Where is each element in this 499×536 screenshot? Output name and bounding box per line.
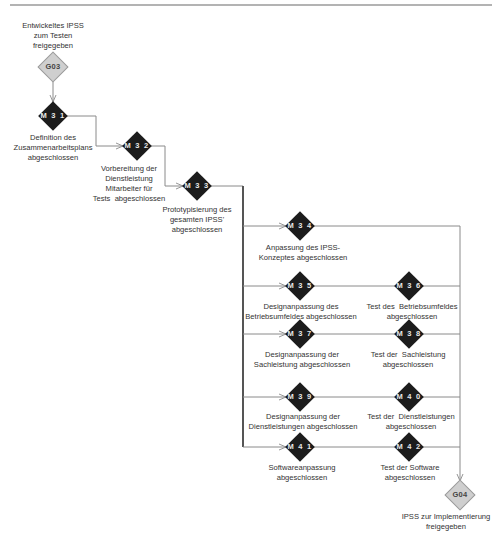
milestone-m35[interactable]: M 3 5 [285,271,315,301]
gate-g04-label: IPSS zur Implementierung freigegeben [402,512,491,532]
milestone-m36[interactable]: M 3 6 [394,271,424,301]
milestone-m37[interactable]: M 3 7 [285,319,315,349]
connector-lines [0,0,499,536]
milestone-m40-label: Test der Dienstleistungen abgeschlossen [367,412,454,432]
milestone-m33[interactable]: M 3 3 [182,171,212,201]
milestone-m34[interactable]: M 3 4 [285,211,315,241]
milestone-m32[interactable]: M 3 2 [122,131,152,161]
milestone-m41[interactable]: M 4 1 [285,432,315,462]
gate-g03[interactable]: G03 [38,52,68,82]
milestone-m39[interactable]: M 3 9 [285,382,315,412]
milestone-m41-label: Softwareanpassung abgeschlossen [268,463,335,483]
gate-g04[interactable]: G04 [445,480,475,510]
milestone-m34-label: Anpassung des IPSS- Konzeptes abgeschlos… [259,243,348,263]
milestone-m42[interactable]: M 4 2 [394,432,424,462]
milestone-m40[interactable]: M 4 0 [394,382,424,412]
milestone-diagram: Entwickeltes IPSS zum Testen freigegeben… [0,0,499,536]
milestone-m38-label: Test der Sachleistung abgeschlossen [371,350,446,370]
milestone-m33-label: Prototypisierung des gesamten IPSS' abge… [162,205,231,235]
milestone-m37-label: Designanpassung der Sachleistung abgesch… [254,350,350,370]
milestone-m42-label: Test der Software abgeschlossen [380,463,439,483]
milestone-m39-label: Designanpassung der Dienstleistungen abg… [249,412,358,432]
gate-g03-label: Entwickeltes IPSS zum Testen freigegeben [22,21,84,51]
milestone-m32-label: Vorbereitung der Dienstleistung Mitarbei… [93,164,166,204]
milestone-m31-label: Definition des Zusammenarbeitsplans abge… [14,133,93,163]
milestone-m38[interactable]: M 3 8 [394,319,424,349]
milestone-m31[interactable]: M 3 1 [38,101,68,131]
